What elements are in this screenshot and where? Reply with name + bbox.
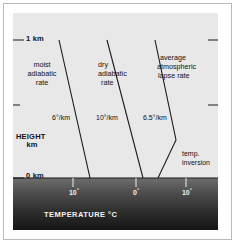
average-rate-label-line3: lapse rate [158,72,218,80]
moist-rate-value: 6°/km [52,114,70,122]
moist-rate-label-line2: adiabatic [16,70,68,78]
average-rate-label-line1: average [160,54,216,62]
dry-rate-label-line2: adiabatic [98,70,144,78]
xtick-label-left: 10° [63,189,85,196]
ytick-label-1km: 1 km [26,35,44,43]
dry-rate-value: 10°/km [96,114,118,122]
average-rate-label-line2: atmospheric [157,63,219,71]
dry-rate-label-line3: rate [101,79,141,87]
average-rate-value: 6.5°/km [143,114,167,122]
xaxis-title: TEMPERATURE °C [44,210,117,219]
yaxis-title-line2: km [16,141,48,149]
ground-band [13,178,218,230]
xtick-label-right: 10° [176,189,198,196]
xtick-label-center: 0° [127,189,145,196]
inversion-label-line1: temp. [182,150,200,158]
dry-rate-label-line1: dry [98,61,144,69]
moist-rate-label-line1: moist [16,61,68,69]
lapse-rate-figure: 1 km 0 km HEIGHT km moist adiabatic rate… [0,0,235,243]
ytick-label-0km: 0 km [26,172,44,180]
inversion-label-line2: inversion [182,159,210,167]
moist-rate-label-line3: rate [16,79,68,87]
